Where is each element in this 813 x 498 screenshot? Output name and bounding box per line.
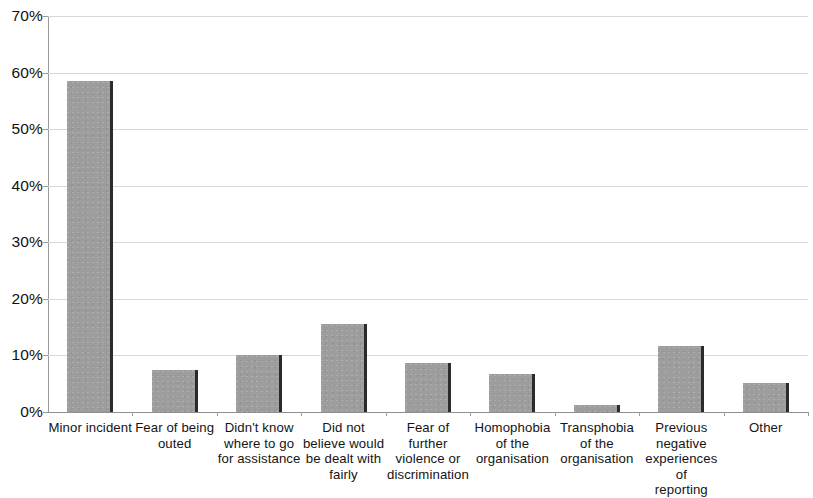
x-axis-tick-label: Fear of beingouted [132,420,216,451]
y-axis-tick-mark [43,242,48,243]
bar [489,374,535,412]
y-axis-tick-mark [43,412,48,413]
x-axis-tick-labels: Minor incidentFear of beingoutedDidn't k… [48,420,813,494]
y-axis-tick-mark [43,16,48,17]
y-axis-tick-mark [43,186,48,187]
x-axis-tick-label-line: organisation [555,451,639,467]
x-axis-tick-label-line: fairly [301,467,385,483]
x-axis-tick-label-line: organisation [470,451,554,467]
y-axis-tick-mark [43,299,48,300]
x-axis-tick-label-line: where to go [217,436,301,452]
x-axis-tick-label: Didn't knowwhere to gofor assistance [217,420,301,467]
plot-area [48,16,808,412]
y-axis-tick-mark [43,355,48,356]
x-axis-tick-label-line: experiences of [639,451,723,482]
x-axis-tick-label: Previousnegativeexperiences ofreporting [639,420,723,498]
x-axis-tick-label-line: Transphobia [555,420,639,436]
x-axis-tick-label: Transphobiaof theorganisation [555,420,639,467]
x-axis-tick-mark [217,412,218,416]
bar [236,355,282,412]
x-axis-tick-label-line: Homophobia [470,420,554,436]
x-axis-tick-label-line: be dealt with [301,451,385,467]
x-axis-tick-mark [386,412,387,416]
x-axis-tick-label-line: believe would [301,436,385,452]
x-axis-tick-mark [132,412,133,416]
x-axis-tick-label: Homophobiaof theorganisation [470,420,554,467]
bar [405,363,451,412]
y-axis-tick-label: 10% [11,348,43,364]
bar [67,81,113,412]
x-axis-tick-label: Fear offurtherviolence ordiscrimination [386,420,470,482]
x-axis-tick-label-line: Minor incident [48,420,132,436]
x-axis-tick-mark [639,412,640,416]
y-axis-tick-label: 70% [11,8,43,24]
y-axis-tick-label: 0% [20,404,43,420]
x-axis-tick-label-line: discrimination [386,467,470,483]
bar [743,383,789,412]
x-axis-tick-mark [470,412,471,416]
x-axis-tick-label-line: negative [639,436,723,452]
bar [658,346,704,412]
bar [321,324,367,412]
x-axis-tick-mark [808,412,809,416]
y-axis-tick-label: 40% [11,178,43,194]
bars [48,16,808,412]
x-axis-tick-label-line: Didn't know [217,420,301,436]
y-axis-tick-mark [43,129,48,130]
x-axis-tick-label-line: violence or [386,451,470,467]
x-axis-tick-label: Did notbelieve wouldbe dealt withfairly [301,420,385,482]
x-axis-tick-label-line: further [386,436,470,452]
y-axis-tick-label: 50% [11,121,43,137]
y-axis-tick-label: 30% [11,235,43,251]
x-axis-tick-label-line: reporting [639,482,723,498]
y-axis-tick-labels: 0%10%20%30%40%50%60%70% [0,0,46,430]
x-axis-tick-label: Minor incident [48,420,132,436]
y-axis-tick-label: 60% [11,65,43,81]
x-axis-tick-label-line: Previous [639,420,723,436]
y-axis-tick-mark [43,73,48,74]
y-axis-tick-label: 20% [11,291,43,307]
x-axis-tick-label: Other [724,420,808,436]
x-axis-tick-label-line: for assistance [217,451,301,467]
x-axis-tick-label-line: of the [555,436,639,452]
x-axis-tick-mark [555,412,556,416]
x-axis-tick-mark [301,412,302,416]
bar [152,370,198,412]
x-axis-tick-label-line: Other [724,420,808,436]
x-axis-tick-label-line: Did not [301,420,385,436]
x-axis-tick-label-line: of the [470,436,554,452]
bar [574,405,620,412]
x-axis-tick-mark [724,412,725,416]
x-axis-tick-label-line: Fear of [386,420,470,436]
x-axis-tick-label-line: outed [132,436,216,452]
x-axis-baseline [48,412,808,413]
x-axis-tick-label-line: Fear of being [132,420,216,436]
